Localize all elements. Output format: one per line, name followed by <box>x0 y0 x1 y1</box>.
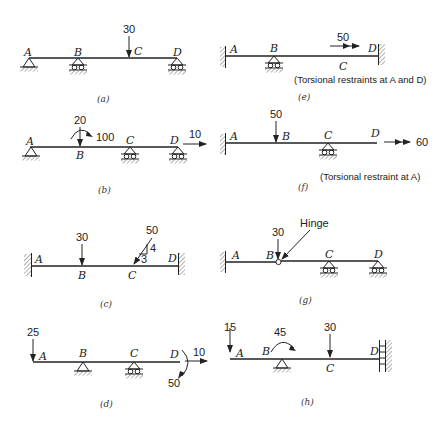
moment-value: 100 <box>96 131 114 143</box>
point-label: A <box>229 130 238 143</box>
point-label: D <box>167 252 177 265</box>
point-label: A <box>229 43 238 56</box>
callout-arrow-icon <box>282 230 310 259</box>
roller-support-icon <box>69 58 87 75</box>
load-value: 30 <box>324 321 336 333</box>
point-label: C <box>339 60 348 73</box>
point-label: B <box>261 345 270 358</box>
load-value: 10 <box>189 128 201 140</box>
load-value: 30 <box>272 226 284 238</box>
moment-arrow-icon <box>182 350 188 376</box>
point-label: A <box>38 350 47 363</box>
point-label: A <box>34 253 43 266</box>
beam-problems-figure: 30 A B C D (a) 50 A B C D (Torsional res… <box>0 0 447 438</box>
torsional-note: (Torsional restraints at A and D) <box>294 74 427 85</box>
point-label: B <box>269 42 278 55</box>
point-label: B <box>77 269 86 282</box>
point-label: D <box>373 248 383 261</box>
load-value: 60 <box>416 136 428 148</box>
panel-caption: (f) <box>298 182 309 192</box>
fixed-wall-icon <box>220 134 225 154</box>
pin-support-icon <box>273 359 291 373</box>
load-value: 30 <box>123 23 135 35</box>
point-label: A <box>25 135 34 148</box>
point-label: D <box>369 345 379 358</box>
load-value: 25 <box>27 326 39 338</box>
roller-support-icon <box>168 58 186 75</box>
moment-value: 45 <box>274 326 286 338</box>
point-label: D <box>367 42 377 55</box>
panel-g: 30 Hinge A B C D (g) <box>220 217 387 305</box>
point-label: C <box>130 347 139 360</box>
point-label: C <box>126 134 135 147</box>
torsional-note: (Torsional restraint at A) <box>320 171 420 182</box>
load-value: 50 <box>270 108 282 120</box>
point-label: C <box>128 269 137 282</box>
panel-d: 25 50 10 A B C D (d) <box>27 326 207 409</box>
roller-support-icon <box>121 147 139 164</box>
guided-roller-wall-icon <box>380 340 393 372</box>
roller-support-icon <box>320 261 338 278</box>
point-label: A <box>23 46 32 59</box>
roller-support-icon <box>319 143 337 160</box>
load-value: 15 <box>224 321 236 333</box>
slope-rise: 4 <box>150 242 156 254</box>
point-label: D <box>169 348 179 361</box>
panel-h: 15 45 30 A B C D (h) <box>224 321 392 407</box>
point-label: C <box>325 248 334 261</box>
load-value: 20 <box>74 114 86 126</box>
hinge-icon <box>276 259 281 264</box>
panel-f: 50 60 A B C D (Torsional restraint at A)… <box>220 108 428 192</box>
point-label: D <box>172 46 182 59</box>
panel-caption: (g) <box>299 295 312 305</box>
panel-caption: (d) <box>100 399 113 409</box>
point-label: B <box>75 149 84 162</box>
point-label: D <box>169 134 179 147</box>
fixed-wall-icon <box>379 44 385 65</box>
panel-c: 30 50 4 3 A B C D (c) <box>24 224 185 309</box>
slope-run: 3 <box>141 253 147 265</box>
point-label: C <box>134 45 143 58</box>
point-label: C <box>324 129 333 142</box>
load-value: 50 <box>146 224 158 236</box>
panel-e: 50 A B C D (Torsional restraints at A an… <box>220 31 427 102</box>
point-label: B <box>281 130 290 143</box>
hinge-callout: Hinge <box>300 217 329 229</box>
panel-caption: (c) <box>100 299 113 309</box>
point-label: C <box>326 362 335 375</box>
moment-value: 50 <box>168 377 180 389</box>
point-label: A <box>235 347 244 360</box>
point-label: B <box>265 249 274 262</box>
panel-b: 20 100 10 A B C D (b) <box>22 114 206 195</box>
fixed-wall-icon <box>220 47 225 67</box>
panel-caption: (e) <box>298 92 311 102</box>
panel-a: 30 A B C D (a) <box>20 23 186 104</box>
pin-support-icon <box>20 58 38 72</box>
panel-caption: (b) <box>98 185 111 195</box>
point-label: A <box>231 249 240 262</box>
load-value: 30 <box>76 231 88 243</box>
load-value: 10 <box>193 346 205 358</box>
point-label: B <box>73 46 82 59</box>
roller-support-icon <box>125 362 143 379</box>
roller-support-icon <box>369 261 387 278</box>
load-value: 50 <box>337 31 349 43</box>
roller-support-icon <box>265 56 283 73</box>
panel-caption: (h) <box>301 397 314 407</box>
pin-support-icon <box>22 147 40 161</box>
pin-support-icon <box>74 362 92 376</box>
point-label: B <box>78 347 87 360</box>
fixed-wall-icon <box>24 254 31 276</box>
fixed-wall-icon <box>220 252 225 272</box>
roller-support-icon <box>169 147 187 164</box>
fixed-wall-icon <box>179 253 185 275</box>
panel-caption: (a) <box>97 94 110 104</box>
point-label: D <box>370 127 380 140</box>
